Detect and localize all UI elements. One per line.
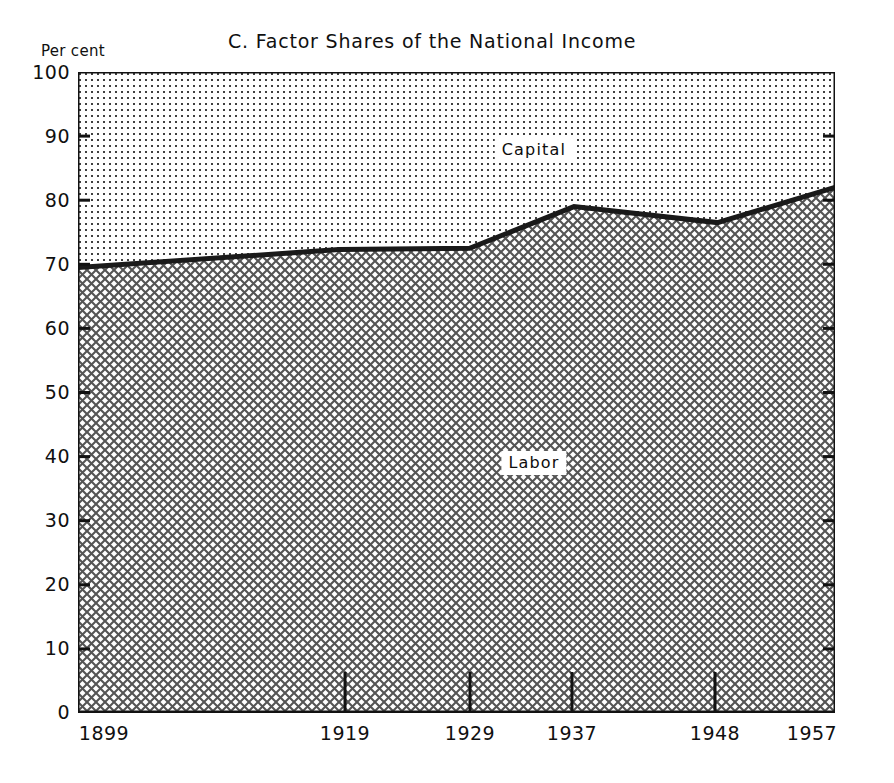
x-axis-labels: 1899 1919 1929 1937 1948 1957 bbox=[0, 0, 894, 783]
x-tick-1937: 1937 bbox=[547, 722, 597, 744]
x-tick-1899: 1899 bbox=[79, 722, 129, 744]
x-tick-1929: 1929 bbox=[445, 722, 495, 744]
x-tick-1919: 1919 bbox=[320, 722, 370, 744]
x-tick-1957: 1957 bbox=[787, 722, 837, 744]
x-tick-1948: 1948 bbox=[690, 722, 740, 744]
chart-figure: C. Factor Shares of the National Income … bbox=[0, 0, 894, 783]
